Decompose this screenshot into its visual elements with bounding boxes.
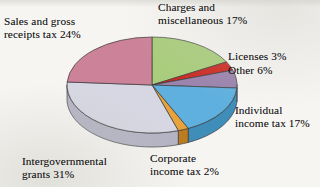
pie-side-wall	[178, 128, 188, 144]
slice-label-corporate-income-tax: Corporate income tax 2%	[150, 152, 219, 177]
slice-label-sales-and-gross-receipts-tax: Sales and gross receipts tax 24%	[4, 15, 81, 40]
slice-label-intergovernmental-grants: Intergovernmental grants 31%	[22, 155, 107, 180]
slice-label-individual-income-tax: Individual income tax 17%	[235, 104, 310, 129]
slice-label-charges-and-miscellaneous: Charges and miscellaneous 17%	[158, 1, 247, 26]
pie-top-slices	[67, 37, 237, 133]
chart-canvas: Sales and gross receipts tax 24% Charges…	[0, 0, 320, 187]
slice-label-other: Other 6%	[228, 64, 272, 77]
pie-slice-sales-and-gross-receipts-tax	[67, 37, 152, 85]
slice-label-licenses: Licenses 3%	[228, 50, 287, 63]
